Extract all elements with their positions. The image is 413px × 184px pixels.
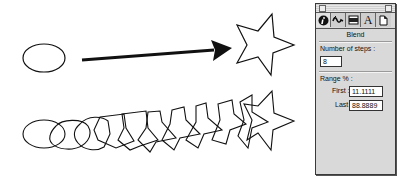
palette-tabs: A: [316, 13, 395, 29]
blend-step-3: [94, 114, 134, 148]
tab-fill[interactable]: [346, 13, 361, 27]
text-icon: A: [364, 14, 373, 26]
document-icon: [379, 15, 388, 26]
first-label: First :: [332, 87, 350, 94]
tab-info[interactable]: [316, 13, 331, 27]
blend-icon: [332, 15, 344, 25]
target-star[interactable]: [237, 14, 294, 75]
blend-step-5: [138, 111, 176, 152]
steps-input[interactable]: 8: [320, 56, 342, 67]
tab-text[interactable]: A: [361, 13, 376, 27]
first-input[interactable]: 11.1111: [349, 86, 383, 97]
panel-title: Blend: [316, 31, 395, 38]
blend-step-2: [74, 117, 110, 150]
blend-step-6: [162, 107, 200, 150]
divider: [319, 71, 392, 73]
close-box-icon[interactable]: [319, 5, 326, 12]
range-label: Range % :: [320, 75, 353, 82]
info-icon: [318, 15, 329, 26]
blend-palette[interactable]: A Blend Number of steps : 8 Range % : Fi…: [315, 3, 396, 175]
last-input[interactable]: 88.8889: [349, 100, 383, 111]
arrow-icon: [82, 40, 232, 61]
source-ellipse[interactable]: [23, 44, 65, 72]
blend-group[interactable]: [23, 91, 294, 152]
tab-document[interactable]: [376, 13, 391, 27]
palette-titlebar[interactable]: [316, 4, 395, 13]
zoom-box-icon[interactable]: [385, 5, 392, 12]
steps-label: Number of steps :: [320, 45, 375, 52]
fill-icon: [348, 15, 359, 25]
blend-step-1: [50, 120, 90, 149]
tab-blend[interactable]: [331, 13, 346, 27]
divider: [319, 41, 392, 43]
